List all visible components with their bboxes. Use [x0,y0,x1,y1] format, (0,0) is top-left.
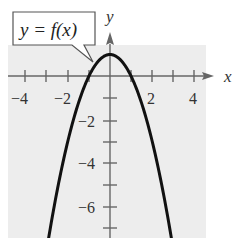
callout-label: y = f(x) [18,19,77,41]
y-axis-label: y [104,7,114,26]
x-tick-label-p4: 4 [189,90,197,107]
x-tick-label-p2: 2 [147,90,155,107]
chart-figure: −4 −2 2 4 x −2 −4 −6 y [0,0,242,238]
chart-svg: −4 −2 2 4 x −2 −4 −6 y [0,0,242,238]
y-axis-arrow-icon [106,32,114,45]
y-tick-label-m2: −2 [78,113,95,130]
x-tick-label-m4: −4 [11,90,28,107]
y-tick-label-m4: −4 [78,155,95,172]
x-axis-label: x [223,67,232,86]
y-tick-label-m6: −6 [78,199,95,216]
x-tick-label-m2: −2 [54,90,71,107]
